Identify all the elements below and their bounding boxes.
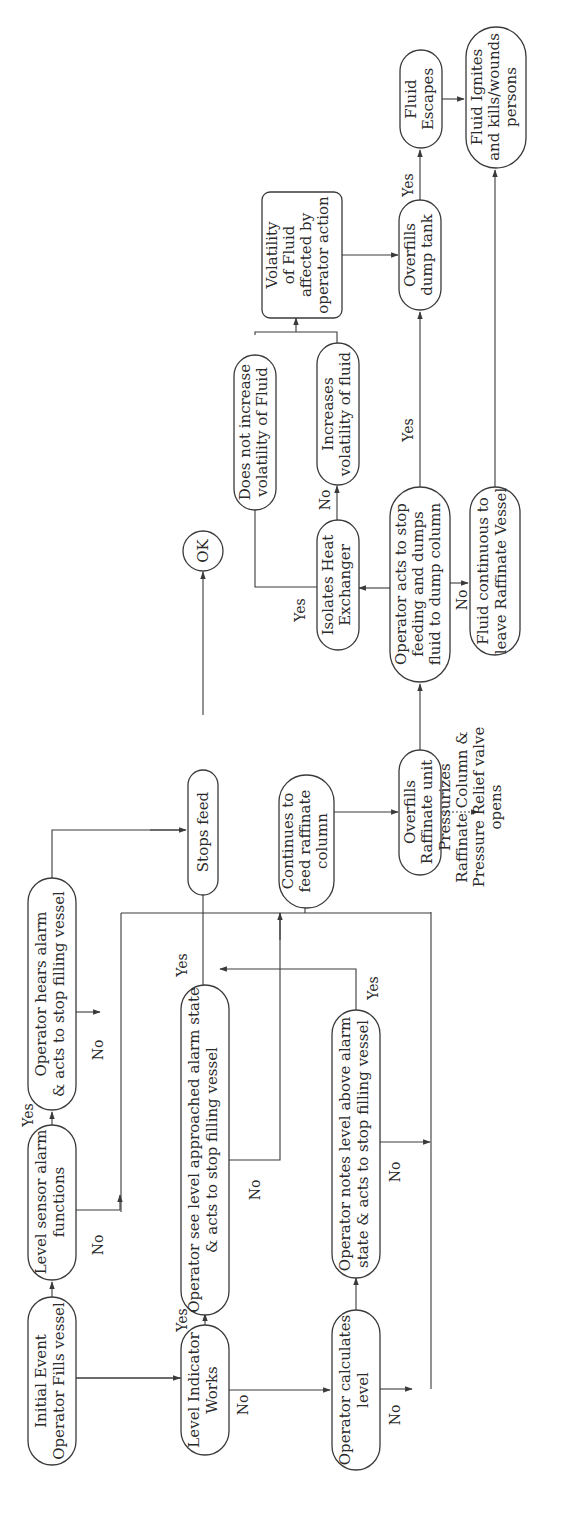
node-operator-hears-alarm: Operator hears alarm & acts to stop fill… bbox=[28, 878, 76, 1110]
svg-text:Initial Event: Initial Event bbox=[32, 1334, 50, 1428]
yes-label: Yes bbox=[365, 976, 381, 1001]
node-isolates-heat-exchanger: Isolates Heat Exchanger bbox=[317, 520, 359, 650]
yes-label: Yes bbox=[20, 1103, 36, 1128]
node-fluid-continuous: Fluid continuous to leave Raffinate Vess… bbox=[470, 487, 520, 655]
node-operator-sees-level: Operator see level approached alarm stat… bbox=[181, 985, 229, 1315]
svg-text:operator action: operator action bbox=[314, 196, 332, 314]
svg-text:leave Raffinate Vessel: leave Raffinate Vessel bbox=[492, 488, 510, 655]
svg-text:OK: OK bbox=[194, 538, 212, 562]
no-label: No bbox=[90, 1235, 106, 1256]
svg-text:Fluid Ignites: Fluid Ignites bbox=[468, 49, 486, 146]
node-pressurizes: Pressurizes Raffinate Column & Pressure … bbox=[436, 727, 505, 888]
svg-text:Raffinate Column &: Raffinate Column & bbox=[453, 731, 471, 882]
node-operator-acts-dump: Operator acts to stop feeding and dumps … bbox=[390, 487, 450, 682]
svg-text:Operator hears alarm: Operator hears alarm bbox=[32, 911, 50, 1076]
svg-text:Overfills: Overfills bbox=[401, 223, 419, 287]
node-fluid-ignites: Fluid Ignites and kills/wounds persons bbox=[466, 27, 526, 168]
node-increases-volatility: Increases volatility of fluid bbox=[317, 343, 359, 485]
svg-text:Pressure Relief valve: Pressure Relief valve bbox=[470, 727, 488, 888]
svg-text:Operator acts to stop: Operator acts to stop bbox=[392, 503, 410, 665]
no-label: No bbox=[90, 1040, 106, 1061]
no-label: No bbox=[247, 1180, 263, 1201]
svg-text:opens: opens bbox=[487, 785, 505, 830]
yes-label: Yes bbox=[400, 173, 416, 198]
svg-text:persons: persons bbox=[502, 67, 520, 127]
svg-text:Volatility: Volatility bbox=[263, 221, 281, 290]
svg-text:Level sensor alarm: Level sensor alarm bbox=[32, 1130, 50, 1275]
svg-text:Operator Fills vessel: Operator Fills vessel bbox=[50, 1302, 68, 1460]
svg-text:Level Indicator: Level Indicator bbox=[185, 1332, 203, 1448]
node-initial-event: Initial Event Operator Fills vessel bbox=[28, 1297, 76, 1465]
svg-text:feeding and dumps: feeding and dumps bbox=[409, 511, 427, 657]
event-tree-diagram: Yes No No Yes No Yes No Yes No No Yes No… bbox=[0, 0, 566, 1539]
no-label: No bbox=[387, 1405, 403, 1426]
yes-label: Yes bbox=[174, 953, 190, 978]
svg-text:state & acts to stop filling v: state & acts to stop filling vessel bbox=[354, 1020, 372, 1268]
svg-text:dump tank: dump tank bbox=[418, 213, 436, 295]
svg-text:feed raffinate: feed raffinate bbox=[296, 790, 314, 893]
svg-text:Operator notes level above ala: Operator notes level above alarm bbox=[336, 1017, 354, 1271]
svg-text:Continues to: Continues to bbox=[279, 793, 297, 890]
node-fluid-escapes: Fluid Escapes bbox=[400, 50, 442, 148]
no-label: No bbox=[235, 1395, 251, 1416]
svg-text:level: level bbox=[354, 1372, 372, 1408]
node-stops-feed: Stops feed bbox=[188, 770, 218, 895]
svg-text:Overfills: Overfills bbox=[401, 780, 419, 844]
svg-text:Escapes: Escapes bbox=[419, 68, 437, 130]
node-continues-feed: Continues to feed raffinate column bbox=[279, 775, 334, 908]
svg-text:volatility of fluid: volatility of fluid bbox=[336, 351, 354, 477]
svg-text:Pressurizes: Pressurizes bbox=[436, 763, 454, 851]
node-volatility-affected: Volatility of Fluid affected by operator… bbox=[262, 192, 342, 318]
svg-text:volatility of Fluid: volatility of Fluid bbox=[253, 367, 271, 498]
no-label: No bbox=[317, 490, 333, 511]
node-level-sensor-alarm: Level sensor alarm functions bbox=[28, 1125, 76, 1280]
svg-text:Fluid: Fluid bbox=[402, 79, 420, 119]
yes-label: Yes bbox=[400, 418, 416, 443]
yes-label: Yes bbox=[292, 598, 308, 623]
svg-text:& acts to stop filling vessel: & acts to stop filling vessel bbox=[50, 891, 68, 1097]
svg-text:Exchanger: Exchanger bbox=[336, 543, 354, 626]
svg-text:Fluid continuous to: Fluid continuous to bbox=[474, 497, 492, 645]
no-label: No bbox=[454, 590, 470, 611]
svg-text:Works: Works bbox=[203, 1366, 221, 1413]
svg-text:affected by: affected by bbox=[297, 212, 315, 297]
svg-text:Does not increase: Does not increase bbox=[236, 364, 254, 500]
svg-text:Isolates Heat: Isolates Heat bbox=[319, 535, 337, 636]
svg-text:functions: functions bbox=[50, 1167, 68, 1238]
svg-text:Raffinate unit: Raffinate unit bbox=[418, 760, 436, 864]
node-ok: OK bbox=[183, 531, 223, 571]
svg-text:of Fluid: of Fluid bbox=[280, 225, 298, 284]
svg-text:Increases: Increases bbox=[319, 377, 337, 450]
svg-text:Operator calculates: Operator calculates bbox=[336, 1315, 354, 1465]
node-overfills-raffinate: Overfills Raffinate unit bbox=[399, 750, 441, 875]
svg-text:and kills/wounds: and kills/wounds bbox=[485, 33, 503, 161]
svg-text:fluid to dump column: fluid to dump column bbox=[426, 503, 444, 666]
node-overfills-dump-tank: Overfills dump tank bbox=[399, 200, 441, 310]
node-level-indicator-works: Level Indicator Works bbox=[181, 1325, 229, 1455]
svg-text:column: column bbox=[313, 813, 331, 869]
no-label: No bbox=[387, 1162, 403, 1183]
svg-text:Stops feed: Stops feed bbox=[194, 791, 212, 872]
node-operator-notes-level: Operator notes level above alarm state &… bbox=[332, 1010, 380, 1278]
node-operator-calculates-level: Operator calculates level bbox=[332, 1310, 380, 1470]
node-does-not-increase: Does not increase volatility of Fluid bbox=[234, 355, 276, 510]
svg-text:Operator see level approached: Operator see level approached alarm stat… bbox=[185, 987, 203, 1313]
svg-text:& acts to stop filling vessel: & acts to stop filling vessel bbox=[203, 1047, 221, 1253]
